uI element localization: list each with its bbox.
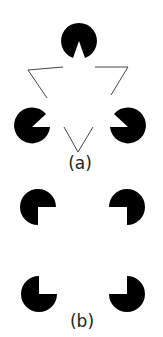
panel-a-label: (a) [60, 153, 100, 173]
disc-top-left [20, 189, 56, 225]
panel-a-triangle [14, 23, 146, 152]
panel-b-label: (b) [62, 311, 102, 331]
line-angle-right [95, 67, 128, 95]
line-angle-left [28, 67, 63, 98]
disc-bottom-right [109, 276, 145, 312]
disc-bottom-left [21, 276, 57, 312]
panel-b-square [20, 189, 145, 312]
disc-top-right [109, 189, 145, 225]
pacman-top [61, 23, 97, 58]
pacman-left [14, 107, 50, 143]
pacman-right [110, 107, 146, 143]
line-angle-bottom [64, 127, 93, 152]
